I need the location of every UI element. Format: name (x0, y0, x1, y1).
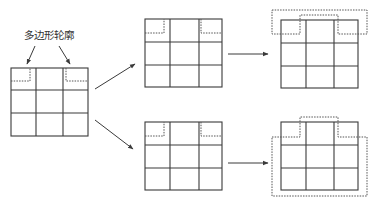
branch-arrow-down (95, 120, 133, 149)
right-corner-notch-outline (66, 68, 88, 81)
diagram-canvas (0, 0, 373, 204)
branch-arrow-up (95, 64, 135, 89)
top-middle-grid (145, 19, 222, 87)
label-arrow-right (59, 46, 70, 64)
left-corner-notch-outline (11, 68, 30, 81)
merged-top-polygon-outline (272, 10, 367, 34)
source-grid (11, 68, 88, 136)
top-right-grid (272, 10, 367, 88)
bottom-middle-grid (145, 122, 222, 190)
bottom-right-grid (272, 117, 367, 196)
label-arrow-left (27, 46, 35, 64)
merged-full-polygon-outline (272, 117, 367, 196)
